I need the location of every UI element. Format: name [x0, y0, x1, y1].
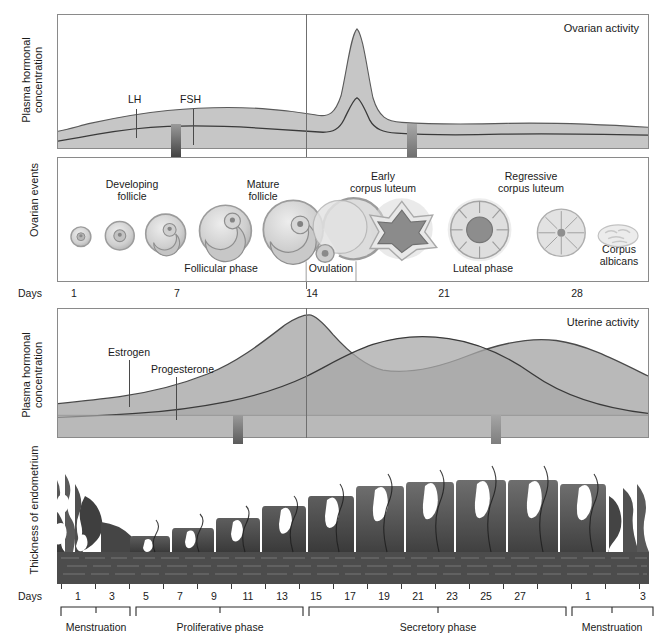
- ovarian-events-panel: Developing follicle Mature follicle Earl…: [57, 157, 649, 282]
- uterine-tick: [197, 584, 198, 589]
- uterine-y-axis-line-2: concentration: [32, 342, 44, 408]
- uterine-day-label: 15: [310, 590, 322, 602]
- uterine-tick: [95, 584, 96, 589]
- fsh-pin: [193, 109, 194, 145]
- uterine-tick: [367, 584, 368, 589]
- ovarian-hormones-y-axis: Plasma hormonal concentration: [20, 15, 44, 145]
- uterine-tick: [435, 584, 436, 589]
- uterine-days-word: Days: [18, 590, 42, 602]
- uterine-tick: [503, 584, 504, 589]
- lh-curve-label: LH: [128, 93, 141, 105]
- uterine-tick: [469, 584, 470, 589]
- ovarian-hormones-panel: Ovarian activity LH FSH: [57, 14, 649, 149]
- progesterone-pin: [176, 377, 177, 420]
- uterine-tick: [333, 584, 334, 589]
- uterine-day-label: 25: [480, 590, 492, 602]
- uterine-day-label: 9: [211, 590, 217, 602]
- uterine-day-label: 23: [446, 590, 458, 602]
- uterine-day-label: 21: [412, 590, 424, 602]
- uterine-tick: [231, 584, 232, 589]
- bracket-label-menstruation: Menstruation: [66, 621, 127, 633]
- uterine-tick: [61, 584, 62, 589]
- estrogen-curve-label: Estrogen: [108, 346, 150, 358]
- progesterone-curve-label: Progesterone: [151, 363, 214, 375]
- uterine-hormone-curves: [58, 309, 648, 437]
- uterine-tick: [163, 584, 164, 589]
- uterine-activity-label: Uterine activity: [567, 316, 639, 328]
- uterine-day-label: 3: [640, 590, 646, 602]
- ovarian-events-y-axis: Ovarian events: [28, 135, 40, 265]
- uterine-tick: [605, 584, 606, 589]
- ovarian-hormone-curves: [58, 15, 648, 148]
- uterine-day-label: 27: [514, 590, 526, 602]
- uterine-tick: [639, 584, 640, 589]
- bracket-label-proliferative: Proliferative phase: [177, 621, 264, 633]
- uterine-day-label: 5: [143, 590, 149, 602]
- uterine-day-label: 1: [585, 590, 591, 602]
- uterine-tick: [299, 584, 300, 589]
- uterine-day-label: 1: [75, 590, 81, 602]
- fsh-curve-label: FSH: [180, 93, 201, 105]
- ovarian-day-tick-7: 7: [174, 287, 180, 299]
- y-axis-line-1: Plasma hormonal: [20, 37, 32, 123]
- uterine-day-label: 13: [276, 590, 288, 602]
- ovarian-day-tick-21: 21: [438, 287, 450, 299]
- bracket-label-secretory: Secretory phase: [400, 621, 476, 633]
- phase-label-luteal: Luteal phase: [453, 262, 513, 274]
- uterine-day-label: 7: [177, 590, 183, 602]
- estrogen-pin: [129, 360, 130, 407]
- uterine-hormones-panel: Uterine activity Estrogen Progesterone: [57, 308, 649, 438]
- ovulation-guide-line-lower: [306, 308, 307, 438]
- ovarian-days-word: Days: [18, 287, 42, 299]
- menstrual-cycle-figure: Plasma hormonal concentration Ovarian ac…: [0, 0, 659, 641]
- ovarian-day-tick-14: 14: [306, 287, 318, 299]
- phase-brackets: [0, 604, 659, 622]
- uterine-tick: [265, 584, 266, 589]
- uterine-tick: [129, 584, 130, 589]
- uterine-day-label: 3: [109, 590, 115, 602]
- bracket-label-menstruation-next: Menstruation: [582, 621, 643, 633]
- endometrium-panel: [57, 444, 649, 584]
- uterine-tick: [571, 584, 572, 589]
- ovarian-activity-label: Ovarian activity: [564, 22, 639, 34]
- lh-pin: [136, 109, 137, 138]
- uterine-day-label: 17: [344, 590, 356, 602]
- uterine-tick: [401, 584, 402, 589]
- uterine-day-label: 11: [243, 590, 254, 602]
- ovarian-day-tick-1: 1: [71, 287, 77, 299]
- endometrium-y-axis: Thickness of endometrium: [28, 440, 40, 580]
- uterine-hormones-y-axis: Plasma hormonal concentration: [20, 310, 44, 440]
- phase-label-follicular: Follicular phase: [184, 262, 258, 274]
- uterine-tick: [537, 584, 538, 589]
- uterine-day-axis: Days 1 3 5 7 9 11 13 15 17 19 21 23 25 2…: [0, 584, 659, 606]
- ovarian-day-axis: Days 1 7 14 21 28: [0, 284, 659, 304]
- ovarian-day-tick-28: 28: [571, 287, 583, 299]
- uterine-y-axis-line-1: Plasma hormonal: [20, 332, 32, 418]
- y-axis-line-2: concentration: [32, 47, 44, 113]
- endometrium-illustration: [57, 444, 649, 584]
- uterine-day-label: 19: [378, 590, 390, 602]
- phase-label-ovulation: Ovulation: [309, 262, 353, 274]
